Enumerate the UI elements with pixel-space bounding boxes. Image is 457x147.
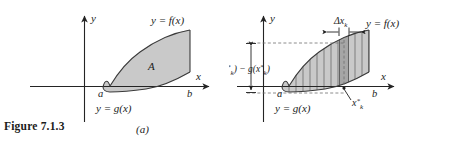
panel-b-diagram: y x a b y = f(x) y = g(x) Δxk f(x*k) − g…: [229, 0, 457, 147]
label-x-star-k: x*k: [351, 97, 364, 111]
height-mid: ) − g(x: [233, 64, 261, 75]
height-end: ): [266, 64, 270, 75]
label-area-a: A: [147, 60, 155, 72]
label-a-point: a: [98, 88, 103, 99]
panel-b: y x a b y = f(x) y = g(x) Δxk f(x*k) − g…: [229, 0, 457, 147]
label-curve-f-b: y = f(x): [365, 17, 399, 30]
panel-a: y x a b y = f(x) y = g(x) A (a): [0, 0, 229, 147]
figure-container: Figure 7.1.3 y x a b: [0, 0, 457, 147]
x-axis-label-a: x: [195, 70, 201, 82]
label-a-point-b: a: [277, 88, 282, 99]
panel-a-diagram: y x a b y = f(x) y = g(x) A: [0, 0, 229, 147]
label-curve-g-b: y = g(x): [274, 102, 311, 115]
label-delta-x: Δxk: [333, 15, 348, 29]
label-delta-x-main: Δx: [333, 15, 345, 26]
y-axis-label-a: y: [90, 12, 96, 24]
sample-point-dot: [342, 86, 345, 89]
y-axis-label-b: y: [269, 12, 275, 24]
area-region-a: [103, 30, 190, 92]
label-curve-g-a: y = g(x): [95, 102, 132, 115]
xstar-sub: k: [360, 103, 364, 111]
subcaption-a: (a): [136, 123, 149, 135]
label-delta-x-sub: k: [344, 21, 348, 29]
label-curve-f-a: y = f(x): [150, 14, 184, 27]
label-b-point-b: b: [372, 88, 377, 99]
label-b-point: b: [187, 88, 192, 99]
xstar-leader-line: [344, 89, 351, 100]
area-region-b: [282, 30, 369, 92]
x-axis-label-b: x: [380, 70, 386, 82]
